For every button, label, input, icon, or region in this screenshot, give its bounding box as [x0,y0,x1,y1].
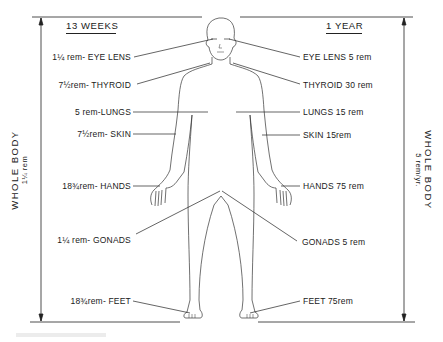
right-label-eye-lens: EYE LENS 5 rem [303,52,371,62]
left-label-eye-lens: 1¼ rem- EYE LENS [52,52,131,62]
right-label-thyroid: THYROID 30 rem [303,80,373,90]
left-label-feet: 18¾rem- FEET [71,296,132,306]
left-label-skin: 7½rem- SKIN [77,129,131,139]
right-label-hands: HANDS 75 rem [303,181,364,191]
right-whole-body-title: WHOLE BODY [423,130,434,209]
dose-limit-diagram: 13 WEEKS 1 YEAR 1¼ rem- EYE LENS 7½rem- … [0,0,443,342]
right-whole-body-value: 5 rem/yr. [413,125,423,215]
left-label-hands: 18¾rem- HANDS [62,181,131,191]
left-whole-body-value: 1¼ rem [20,125,30,215]
right-whole-body-label: WHOLE BODY 5 rem/yr. [413,125,433,215]
right-label-feet: FEET 75rem [303,296,353,306]
left-arrow-down-icon [39,314,43,321]
right-header-underline [326,33,362,34]
left-whole-body-label: WHOLE BODY 1¼ rem [10,125,30,215]
right-label-lungs: LUNGS 15 rem [303,107,364,117]
left-label-gonads: 1¼ rem- GONADS [57,235,131,245]
left-arrow-up-icon [39,18,43,25]
left-label-lungs: 5 rem-LUNGS [75,107,131,117]
left-header-underline [66,33,116,34]
left-label-thyroid: 7½rem- THYROID [58,80,131,90]
faint-caption-smudge [16,333,106,337]
human-figure-outline [151,18,292,318]
right-label-gonads: GONADS 5 rem [302,237,365,247]
right-column-header: 1 YEAR [326,20,363,31]
left-column-header: 13 WEEKS [66,20,118,31]
right-label-skin: SKIN 15rem [303,130,351,140]
left-whole-body-title: WHOLE BODY [9,130,20,209]
left-leader-lines [133,39,220,313]
